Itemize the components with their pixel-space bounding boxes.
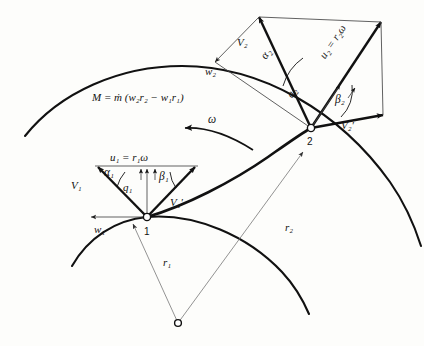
vector-V1-label: V₁ (71, 179, 82, 191)
velocity-triangle-figure: M = ṁ (w₂r₂ − w₁r₁) ω 1 2 r₁ r₂ V₁ V₁′ u… (0, 0, 424, 346)
angle-alpha1-label: α₁ (104, 166, 114, 178)
radius-r2-line (178, 152, 303, 323)
radius-r1-label: r₁ (163, 256, 171, 268)
omega-label: ω (208, 113, 216, 125)
radius-r1-line (133, 224, 178, 323)
outer-shroud-arc (25, 66, 421, 246)
vector-V2-prime-label: V₂′ (341, 119, 355, 131)
vector-u2-label: u₂ = r₂ω (317, 22, 348, 61)
vector-u1-label: u₁ = r₁ω (110, 151, 148, 163)
angle-beta2-label: β₂ (334, 93, 345, 106)
station-1-node (143, 213, 150, 220)
inner-hub-arc (72, 217, 309, 314)
vector-V2-label: V₂ (237, 36, 248, 48)
angle-beta1-label: β₁ (158, 170, 169, 183)
station-2-label: 2 (307, 136, 313, 147)
vector-w2-label: w₂ (205, 65, 216, 77)
radius-r2-label: r₂ (285, 221, 293, 233)
axis-of-rotation-node (175, 320, 182, 327)
station-1-label: 1 (144, 226, 150, 237)
vector-q2-line (311, 85, 340, 128)
diagram-canvas: M = ṁ (w₂r₂ − w₁r₁) ω 1 2 r₁ r₂ V₁ V₁′ u… (0, 0, 424, 346)
vector-V1-prime-label: V₁′ (170, 196, 184, 208)
vector-q1-label: q₁ (123, 181, 133, 193)
vector-V2-prime-closure (381, 22, 383, 115)
omega-arc-arrow (185, 128, 253, 150)
angle-alpha2-label: α₂ (258, 46, 274, 61)
angle-beta1-arc (170, 172, 176, 188)
vector-u2-closure (259, 17, 381, 22)
moment-equation-label: M = ṁ (w₂r₂ − w₁r₁) (91, 91, 184, 104)
station-2-node (307, 124, 314, 131)
vector-w1-label: w₁ (94, 223, 105, 235)
vector-V2 (259, 17, 311, 128)
